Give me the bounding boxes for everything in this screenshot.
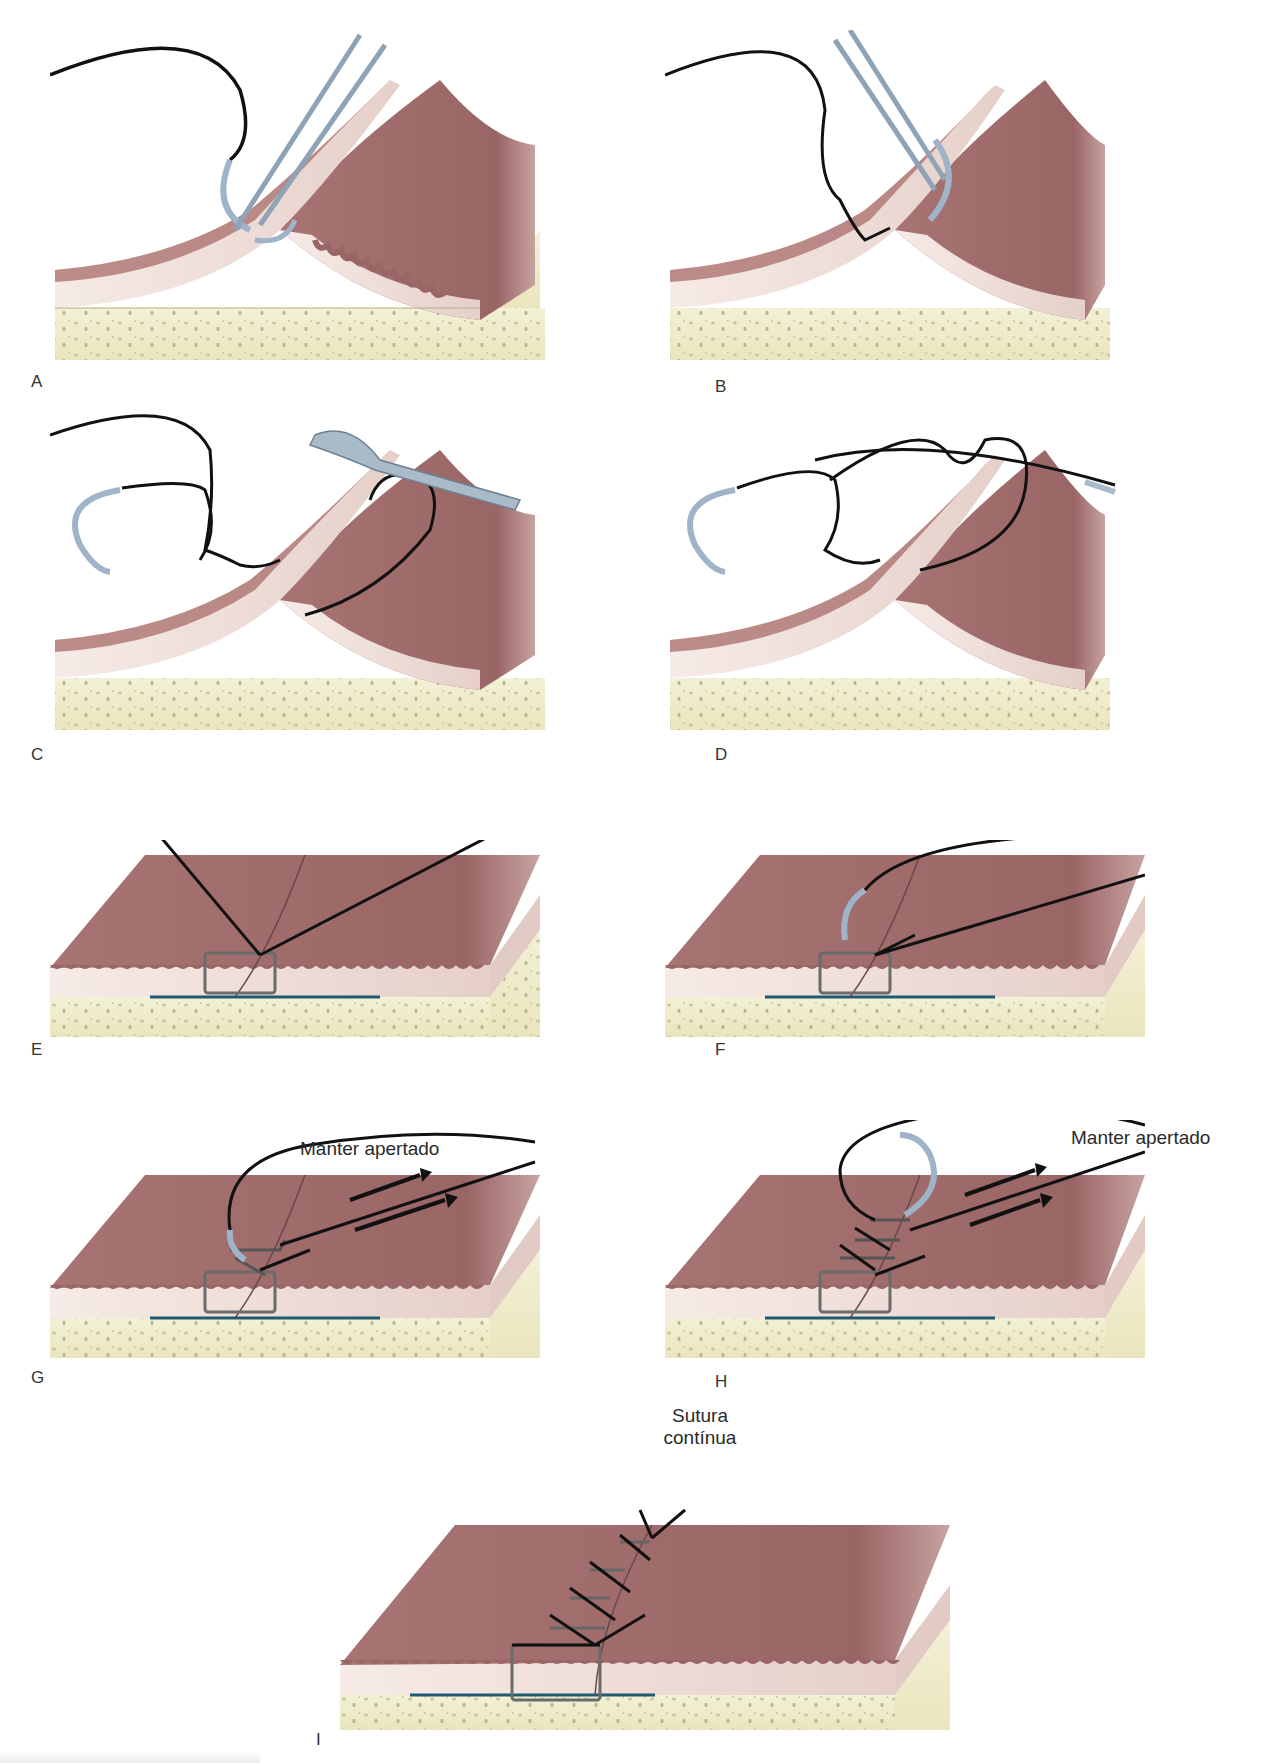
illustration-flap-needle-forceps xyxy=(50,30,550,370)
annotation-continuous-suture: Sutura contínua xyxy=(655,1405,745,1449)
annotation-line-1: Sutura xyxy=(655,1405,745,1427)
illustration-flap-needle-through xyxy=(665,30,1115,370)
panel-d xyxy=(665,400,1125,740)
illustration-flap-needle-holder xyxy=(50,400,570,740)
panel-c xyxy=(50,400,570,740)
annotation-keep-tight-g: Manter apertado xyxy=(300,1138,439,1160)
panel-h xyxy=(665,1120,1145,1360)
illustration-keep-tight-2 xyxy=(665,1120,1145,1360)
panel-label-h: H xyxy=(715,1372,727,1392)
panel-f xyxy=(665,840,1145,1040)
panel-a xyxy=(50,30,550,370)
panel-e xyxy=(50,840,550,1040)
panel-label-d: D xyxy=(715,745,727,765)
panel-label-b: B xyxy=(715,377,726,397)
panel-i xyxy=(340,1470,950,1730)
cropped-caption xyxy=(0,1752,260,1763)
illustration-continuous-suture xyxy=(340,1470,950,1730)
panel-label-f: F xyxy=(715,1040,725,1060)
panel-label-e: E xyxy=(31,1040,42,1060)
illustration-initial-knot xyxy=(50,840,550,1040)
annotation-line-2: contínua xyxy=(655,1427,745,1449)
panel-label-g: G xyxy=(31,1368,44,1388)
illustration-needle-pass xyxy=(665,840,1145,1040)
panel-label-c: C xyxy=(31,745,43,765)
panel-label-a: A xyxy=(31,372,42,392)
illustration-flap-thread-loops xyxy=(665,400,1125,740)
annotation-keep-tight-h: Manter apertado xyxy=(1071,1127,1210,1149)
panel-label-i: I xyxy=(316,1730,321,1750)
panel-b xyxy=(665,30,1115,370)
